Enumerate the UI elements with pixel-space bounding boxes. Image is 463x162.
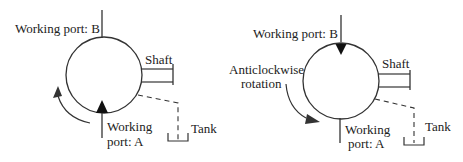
left-motor-diagram: Working port: B Shaft Working port: A Ta… (15, 10, 217, 149)
right-rotation-arc (286, 84, 306, 118)
right-tank-label: Tank (425, 119, 451, 134)
right-rotation-label-line2: rotation (241, 76, 282, 91)
right-rotation-arrow-icon (305, 114, 320, 124)
left-port-a-label-line2: port: A (107, 134, 144, 149)
right-port-a-label-line2: port: A (348, 136, 385, 151)
left-shaft (141, 64, 173, 85)
right-rotation-label-line1: Anticlockwise (229, 62, 304, 77)
left-motor-circle (66, 37, 142, 113)
left-port-a-label-line1: Working (107, 119, 153, 134)
left-rotation-arc (58, 96, 90, 123)
left-rotation-arrow-icon (53, 86, 62, 98)
left-tank-label: Tank (191, 121, 217, 136)
left-port-a-arrow-icon (96, 100, 108, 113)
right-port-b-label: Working port: B (253, 26, 338, 41)
left-port-b-label: Working port: B (15, 21, 100, 36)
left-shaft-label: Shaft (145, 52, 173, 67)
right-shaft-label: Shaft (382, 56, 410, 71)
hydraulic-motor-diagram: Working port: B Shaft Working port: A Ta… (0, 0, 463, 162)
right-motor-diagram: Working port: B Shaft Working port: A Ta… (229, 15, 451, 151)
right-shaft (378, 70, 410, 90)
right-port-b-arrow-icon (335, 43, 347, 55)
right-port-a-label-line1: Working (345, 122, 391, 137)
